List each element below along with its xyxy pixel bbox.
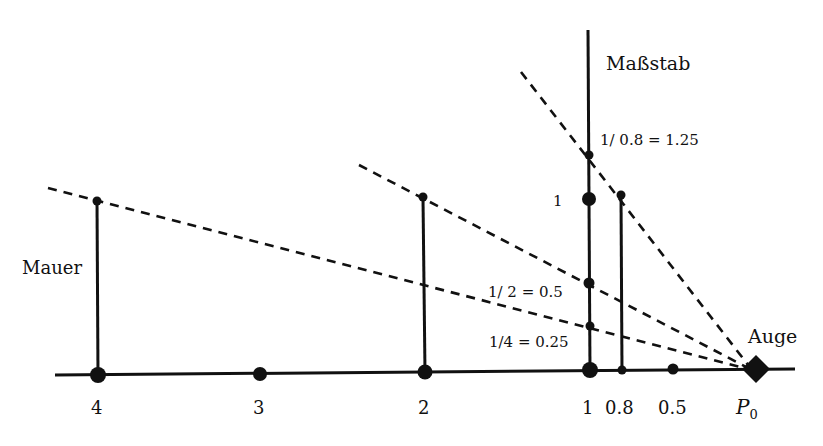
tick-label-4: 4	[91, 397, 102, 418]
tick-label-3: 3	[253, 397, 264, 418]
wall-08	[621, 196, 622, 370]
base-point-4	[90, 367, 106, 383]
wall-2-top	[419, 193, 428, 202]
eye-diamond-icon	[742, 355, 770, 383]
base-point-1	[582, 362, 598, 378]
tick-label-2: 2	[418, 397, 429, 418]
sight-line-4	[48, 188, 752, 370]
wall-4-top	[93, 197, 102, 206]
label-stick-025: 1/4 = 0.25	[489, 333, 569, 351]
base-point-08	[618, 366, 627, 375]
base-point-3	[253, 367, 267, 381]
tick-label-05: 0.5	[658, 397, 687, 418]
label-stick-05: 1/ 2 = 0.5	[488, 283, 563, 301]
tick-label-08: 0.8	[605, 397, 634, 418]
point-stick-1	[582, 192, 596, 206]
base-point-2	[418, 365, 433, 380]
label-stick-125: 1/ 0.8 = 1.25	[600, 131, 699, 149]
label-eye-point: P0	[735, 395, 758, 422]
perspective-diagram: Maßstab 1/ 0.8 = 1.25 1 1/ 2 = 0.5 1/4 =…	[0, 0, 823, 446]
label-wall: Mauer	[22, 257, 82, 278]
point-stick-125	[585, 151, 594, 160]
label-stick-1: 1	[553, 192, 563, 210]
label-measuring-stick: Maßstab	[606, 52, 690, 74]
tick-label-1: 1	[582, 397, 593, 418]
sight-line-08	[521, 72, 752, 370]
wall-08-top	[617, 191, 626, 200]
base-point-05	[668, 364, 679, 375]
diagram-canvas: Maßstab 1/ 0.8 = 1.25 1 1/ 2 = 0.5 1/4 =…	[0, 0, 823, 446]
wall-4	[97, 201, 98, 375]
point-stick-05	[584, 278, 595, 289]
label-eye: Auge	[747, 325, 797, 347]
point-stick-025	[586, 322, 595, 331]
